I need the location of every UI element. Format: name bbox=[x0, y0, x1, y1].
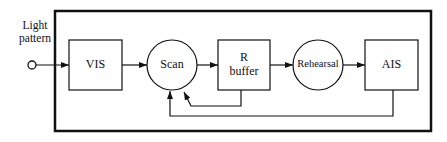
rehearsal-label: Rehearsal bbox=[293, 58, 343, 69]
input-label: Light pattern bbox=[14, 19, 56, 45]
input-label-line1: Light bbox=[14, 19, 56, 32]
vis-label: VIS bbox=[69, 57, 122, 72]
input-terminal-icon bbox=[28, 61, 36, 69]
scan-label: Scan bbox=[147, 57, 197, 72]
edge-rbuffer-scan-feedback bbox=[184, 90, 241, 106]
edge-ais-scan-feedback bbox=[170, 90, 393, 116]
ais-label: AIS bbox=[365, 57, 418, 72]
rbuffer-label: R buffer bbox=[218, 50, 270, 78]
rbuffer-label-line2: buffer bbox=[218, 64, 270, 78]
diagram: Light pattern VIS Scan R buffer Rehearsa… bbox=[0, 0, 447, 142]
input-label-line2: pattern bbox=[14, 32, 56, 45]
rbuffer-label-line1: R bbox=[218, 50, 270, 64]
